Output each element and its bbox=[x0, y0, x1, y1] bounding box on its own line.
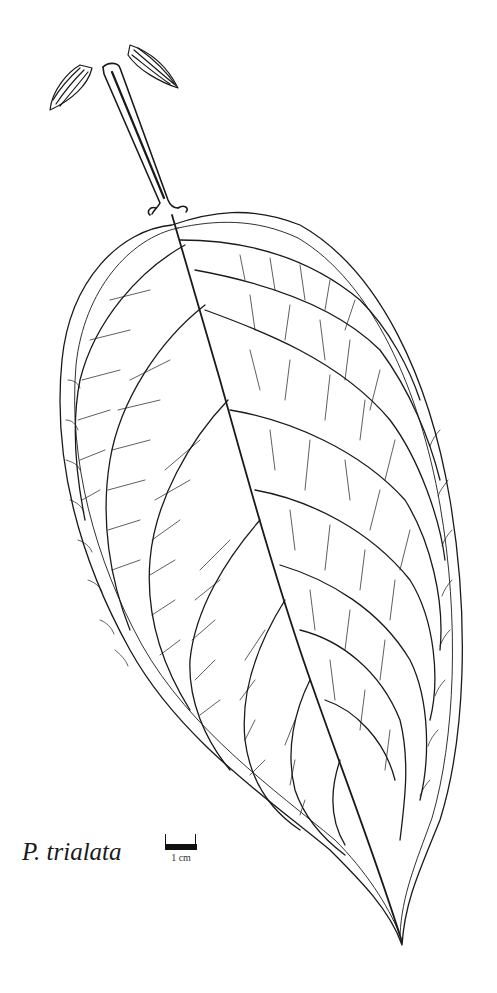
scale-bar-fill bbox=[165, 844, 197, 850]
scale-bar-label: 1 cm bbox=[165, 852, 197, 863]
species-label: P. trialata bbox=[22, 838, 122, 866]
leaf-blade bbox=[60, 212, 462, 945]
scale-bar: 1 cm bbox=[165, 832, 197, 862]
secondary-veins bbox=[75, 240, 445, 855]
botanical-illustration: P. trialata 1 cm bbox=[0, 0, 497, 993]
petiole bbox=[103, 63, 187, 215]
tertiary-veins bbox=[66, 255, 452, 815]
